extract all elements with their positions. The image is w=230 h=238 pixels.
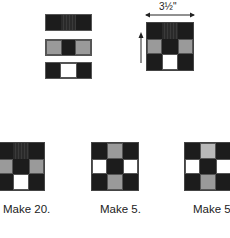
strip-1 xyxy=(45,14,92,31)
strip-2 xyxy=(45,39,92,56)
variant-1-cell-1-3 xyxy=(29,143,44,159)
variant-1-cell-2-2 xyxy=(13,159,28,175)
assembled-cell-3-1 xyxy=(147,54,162,70)
variant-2-cell-2-2 xyxy=(107,159,122,175)
variant-block-2 xyxy=(91,142,139,191)
strip-3-cell-2 xyxy=(60,63,76,78)
variant-3-cell-3-1 xyxy=(185,174,200,190)
strip-2-cell-3 xyxy=(75,40,91,55)
variant-block-1 xyxy=(0,142,45,191)
assembled-cell-1-2 xyxy=(162,23,177,39)
strip-1-cell-1 xyxy=(46,15,61,30)
variant-2-cell-3-2 xyxy=(107,174,122,190)
variant-2-cell-1-2 xyxy=(107,143,122,159)
variant-3-cell-2-1 xyxy=(185,159,200,175)
variant-2-cell-2-1 xyxy=(92,159,107,175)
assembled-cell-2-2 xyxy=(162,39,177,55)
strip-2-cell-2 xyxy=(62,40,76,55)
strip-1-cell-3 xyxy=(76,15,91,30)
variant-1-cell-2-3 xyxy=(29,159,44,175)
variant-3-cell-2-3 xyxy=(216,159,230,175)
variant-1-cell-3-2 xyxy=(13,174,28,190)
vertical-direction-arrow-icon xyxy=(138,32,144,64)
variant-2-cell-2-3 xyxy=(123,159,138,175)
variant-3-cell-3-3 xyxy=(216,174,230,190)
variant-block-3 xyxy=(184,142,230,191)
strip-2-cell-1 xyxy=(46,40,62,55)
variant-1-cell-1-1 xyxy=(0,143,13,159)
variant-2-cell-1-3 xyxy=(123,143,138,159)
horizontal-dimension-arrow-icon xyxy=(144,11,196,19)
variant-1-cell-3-1 xyxy=(0,174,13,190)
variant-3-cell-2-2 xyxy=(200,159,215,175)
strip-3-cell-1 xyxy=(46,63,60,78)
variant-2-label: Make 5. xyxy=(100,203,141,215)
assembled-cell-2-3 xyxy=(178,39,193,55)
variant-3-cell-1-3 xyxy=(216,143,230,159)
assembled-cell-3-3 xyxy=(178,54,193,70)
variant-1-cell-3-3 xyxy=(29,174,44,190)
variant-3-cell-3-2 xyxy=(200,174,215,190)
variant-3-label: Make 5. xyxy=(193,203,230,215)
assembled-cell-1-3 xyxy=(178,23,193,39)
assembled-cell-3-2 xyxy=(162,54,177,70)
variant-1-cell-2-1 xyxy=(0,159,13,175)
strip-1-cell-2 xyxy=(61,15,76,30)
assembled-cell-2-1 xyxy=(147,39,162,55)
variant-1-cell-1-2 xyxy=(13,143,28,159)
assembled-cell-1-1 xyxy=(147,23,162,39)
variant-2-cell-1-1 xyxy=(92,143,107,159)
assembled-block xyxy=(146,22,194,71)
strip-3-cell-3 xyxy=(77,63,91,78)
variant-3-cell-1-2 xyxy=(200,143,215,159)
variant-2-cell-3-3 xyxy=(123,174,138,190)
variant-2-cell-3-1 xyxy=(92,174,107,190)
variant-1-label: Make 20. xyxy=(3,203,50,215)
variant-3-cell-1-1 xyxy=(185,143,200,159)
strip-3 xyxy=(45,62,92,79)
